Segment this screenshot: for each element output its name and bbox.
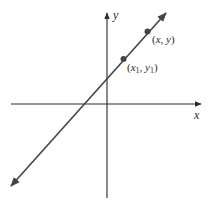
y-axis-label: y — [112, 8, 119, 22]
coordinate-diagram: y x (x, y) (x1, y1) — [0, 0, 212, 205]
x-axis-label: x — [193, 108, 200, 122]
point-x-y-marker — [145, 29, 151, 35]
point-x1-y1-label: (x1, y1) — [127, 61, 158, 75]
point-x-y-label: (x, y) — [152, 33, 175, 46]
point-x1-y1-marker — [121, 56, 127, 62]
graphed-line — [11, 13, 166, 186]
